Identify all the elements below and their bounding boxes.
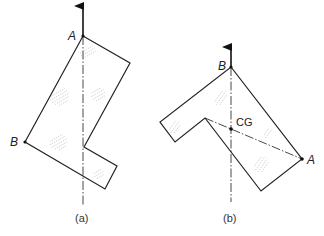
hatch-marks-b [169,90,272,174]
center-of-gravity-dot [229,127,233,131]
point-b-dot-a [23,140,26,143]
label-cg: CG [236,116,253,128]
figure-a: A B (a) [10,6,130,224]
point-a-dot-b [300,157,304,161]
hatch-marks-a [49,45,107,179]
caption-a: (a) [75,212,88,224]
figure-b: B A CG (b) [160,47,315,224]
label-a-right: A [306,153,315,167]
label-b-left: B [10,135,18,149]
pivot-point-a [81,34,84,37]
label-b-top: B [218,59,226,73]
label-a-top: A [67,29,76,43]
pivot-point-b [229,65,232,68]
center-of-gravity-diagram: A B (a) [0,0,324,236]
caption-b: (b) [223,212,236,224]
plumb-line-from-a [205,118,302,159]
l-shape-outline-a [25,36,130,189]
